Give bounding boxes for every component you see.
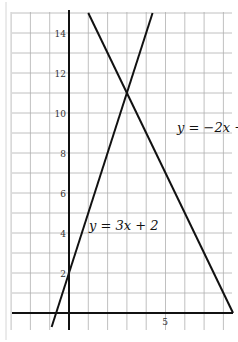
y-tick-label-6: 6: [60, 189, 66, 199]
coordinate-plane-chart: 14 12 10 8 6 4 2 5 y = −2x + 17 y = 3x +…: [0, 0, 238, 342]
y-tick-label-10: 10: [55, 109, 67, 119]
y-tick-label-12: 12: [55, 69, 66, 79]
line-y-3x-plus-2: [52, 13, 153, 327]
grid: [11, 12, 232, 330]
line-y-neg2x-plus-17: [88, 13, 233, 313]
equation-label-line2: y = −2x + 17: [176, 120, 238, 135]
y-tick-label-8: 8: [60, 149, 66, 159]
y-tick-label-14: 14: [55, 29, 67, 39]
y-tick-label-4: 4: [60, 229, 66, 239]
y-tick-label-2: 2: [60, 269, 66, 279]
x-tick-label-5: 5: [162, 317, 168, 327]
equation-label-line1: y = 3x + 2: [88, 218, 159, 233]
